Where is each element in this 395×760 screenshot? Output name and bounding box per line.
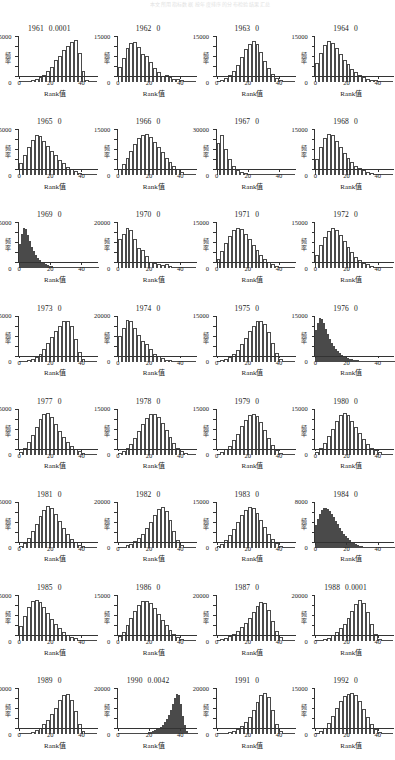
x-axis (117, 542, 197, 543)
y-axis-label: 频率 (4, 704, 12, 717)
x-tick-label: 20 (47, 172, 54, 179)
y-tick-zero-label: 0 (107, 638, 110, 645)
x-axis-label: Rank值 (14, 647, 96, 657)
x-tick-label: 40 (78, 172, 85, 179)
y-tick (114, 625, 117, 626)
x-tick-label: 40 (374, 79, 381, 86)
y-tick (312, 46, 315, 47)
y-tick (114, 502, 117, 503)
y-tick-zero-label: 0 (206, 172, 209, 179)
y-axis-label: 频率 (300, 518, 308, 531)
panel-title: 19840 (296, 490, 395, 499)
x-tick-label: 40 (78, 79, 85, 86)
x-axis (117, 728, 197, 729)
y-tick (213, 159, 216, 160)
x-tick-label: 40 (276, 265, 283, 272)
y-tick (15, 688, 18, 689)
y-tick-max-label: 15000 (292, 685, 308, 692)
panel-title: 19670 (198, 117, 297, 126)
histogram-panel: 19720频率15000002040Rank值 (296, 200, 395, 293)
panel-pvalue: 0 (157, 117, 161, 126)
x-tick-label: 40 (276, 172, 283, 179)
plot-area: 15000002040Rank值 (310, 409, 392, 455)
panel-title: 19780 (99, 397, 198, 406)
plot-area: 15000002040Rank值 (310, 129, 392, 175)
histogram-panel: 19760频率15000002040Rank值 (296, 294, 395, 387)
panel-title: 19640 (296, 24, 395, 33)
y-tick (213, 129, 216, 130)
panel-title: 19860 (99, 583, 198, 592)
x-tick-label: 0 (314, 452, 317, 459)
y-tick (213, 56, 216, 57)
y-axis-label: 频率 (202, 52, 210, 65)
x-axis-label: Rank值 (310, 460, 392, 470)
x-axis-label: Rank值 (212, 181, 294, 191)
y-axis-label: 频率 (103, 145, 111, 158)
x-tick-label: 0 (215, 731, 218, 738)
y-tick-zero-label: 0 (305, 172, 308, 179)
x-tick-label: 20 (47, 731, 54, 738)
y-tick-zero-label: 0 (206, 79, 209, 86)
x-tick-label: 20 (47, 265, 54, 272)
plot-area: 15000002040Rank值 (14, 36, 96, 82)
y-tick (312, 316, 315, 317)
x-tick-label: 40 (374, 452, 381, 459)
panel-year: 1962 (136, 24, 152, 33)
panel-title: 19680 (296, 117, 395, 126)
histogram-panel: 19860频率15000002040Rank值 (99, 573, 198, 666)
x-axis-label: Rank值 (310, 274, 392, 284)
x-axis-label: Rank值 (113, 181, 195, 191)
y-tick (312, 149, 315, 150)
y-tick-zero-label: 0 (206, 451, 209, 458)
y-tick-max-label: 15000 (292, 405, 308, 412)
x-axis (314, 635, 394, 636)
plot-area: 15000002040Rank值 (310, 36, 392, 82)
x-tick-label: 0 (215, 79, 218, 86)
y-axis-label: 频率 (300, 611, 308, 624)
x-tick-label: 20 (47, 359, 54, 366)
x-tick-label: 20 (244, 79, 251, 86)
panel-pvalue: 0 (354, 210, 358, 219)
x-tick-label: 0 (116, 545, 119, 552)
panel-pvalue: 0 (58, 490, 62, 499)
plot-area: 15000002040Rank值 (310, 222, 392, 268)
panel-title: 19630 (198, 24, 297, 33)
y-tick-zero-label: 0 (305, 638, 308, 645)
y-tick (312, 512, 315, 513)
y-tick-zero-label: 0 (206, 731, 209, 738)
histogram-panel: 19660频率15000002040Rank值 (99, 107, 198, 200)
y-tick (114, 66, 117, 67)
x-tick-label: 0 (215, 545, 218, 552)
y-tick (15, 708, 18, 709)
histogram-panel: 19850频率15000002040Rank值 (0, 573, 99, 666)
y-tick (114, 708, 117, 709)
x-tick-label: 0 (314, 265, 317, 272)
y-tick (213, 532, 216, 533)
panel-title: 19790 (198, 397, 297, 406)
x-axis-label: Rank值 (14, 740, 96, 750)
x-axis-label: Rank值 (310, 553, 392, 563)
panel-year: 1983 (234, 490, 250, 499)
y-tick (15, 718, 18, 719)
x-axis-label: Rank值 (113, 367, 195, 377)
x-axis (18, 542, 98, 543)
y-tick-max-label: 15000 (0, 312, 12, 319)
y-tick-max-label: 20000 (193, 685, 209, 692)
y-tick (312, 698, 315, 699)
x-tick-label: 0 (17, 638, 20, 645)
y-tick-max-label: 15000 (292, 312, 308, 319)
y-axis-label: 频率 (300, 52, 308, 65)
y-tick-max-label: 15000 (292, 126, 308, 133)
panel-pvalue: 0 (354, 676, 358, 685)
panel-pvalue: 0 (255, 490, 259, 499)
y-tick-max-label: 30000 (193, 126, 209, 133)
y-tick (312, 532, 315, 533)
panel-title: 19750 (198, 304, 297, 313)
y-tick-max-label: 20000 (94, 498, 110, 505)
y-tick-zero-label: 0 (107, 172, 110, 179)
x-tick-label: 20 (146, 79, 153, 86)
x-tick-label: 0 (17, 172, 20, 179)
y-tick (114, 46, 117, 47)
x-tick-label: 20 (343, 638, 350, 645)
x-axis (314, 356, 394, 357)
